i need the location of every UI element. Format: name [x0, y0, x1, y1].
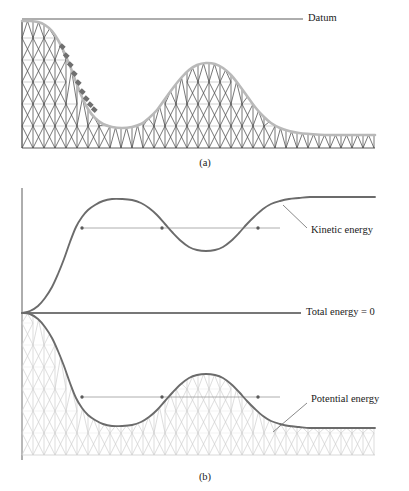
lattice-diagonal [66, 387, 72, 411]
lattice-diagonal [198, 64, 204, 82]
lattice-diagonal [358, 135, 364, 148]
lattice-diagonal [193, 68, 199, 82]
lattice-diagonal [121, 128, 127, 148]
lattice-diagonal [171, 91, 177, 104]
potential-level-marker [256, 395, 259, 398]
lattice-diagonal [220, 380, 226, 389]
lattice-diagonal [264, 420, 270, 433]
lattice-diagonal [319, 135, 325, 148]
lattice-diagonal [44, 334, 50, 345]
lattice-diagonal [297, 133, 303, 148]
lattice-diagonal [204, 374, 210, 389]
lattice-diagonal [127, 128, 133, 148]
roller-coaster-train [59, 43, 98, 113]
lattice-diagonal [110, 127, 116, 148]
lattice-diagonal [127, 426, 133, 433]
lattice-diagonal [77, 409, 83, 433]
lattice-diagonal [325, 135, 331, 148]
lattice-diagonal [292, 132, 298, 149]
lattice-diagonal [242, 97, 248, 104]
trestle-lattice [22, 21, 374, 148]
lattice-diagonal [116, 127, 122, 148]
lattice-diagonal [77, 98, 83, 126]
lattice-diagonal [314, 134, 320, 148]
lattice-diagonal [231, 390, 237, 412]
lattice-diagonal [22, 314, 28, 323]
lattice-diagonal [33, 22, 39, 38]
lattice-diagonal [138, 125, 144, 148]
kinetic-level-marker [80, 226, 83, 229]
panel-a-caption: (a) [199, 157, 211, 169]
lattice-diagonal [286, 426, 292, 433]
lattice-diagonal [369, 135, 375, 148]
lattice-diagonal [275, 424, 281, 433]
lattice-diagonal [138, 423, 144, 433]
panel-b-caption: (b) [199, 471, 212, 483]
lattice-diagonal [28, 21, 34, 38]
lattice-diagonal [33, 320, 39, 345]
lattice-diagonal [66, 70, 72, 104]
lattice-diagonal [99, 424, 105, 433]
lattice-diagonal [88, 419, 94, 433]
lattice-diagonal [341, 135, 347, 148]
potential-level-marker [160, 395, 163, 398]
kinetic-energy-curve [22, 197, 375, 313]
coaster-car [91, 106, 98, 113]
lattice-diagonal [44, 29, 50, 38]
lattice-diagonal [22, 21, 28, 38]
lattice-diagonal [253, 412, 259, 433]
lattice-diagonal [330, 135, 336, 148]
lattice-diagonal [198, 374, 204, 389]
energy-conservation-figure: (a) (b) Datum Total energy = 0 Kinetic e… [0, 0, 409, 491]
trestle-lattice [22, 313, 374, 455]
lattice-diagonal [88, 116, 94, 126]
lattice-diagonal [363, 135, 369, 148]
lattice-diagonal [182, 384, 188, 389]
lattice-diagonal [204, 64, 210, 82]
lattice-diagonal [303, 133, 309, 148]
kinetic-energy-leader [283, 205, 307, 228]
lattice-diagonal [231, 82, 237, 104]
lattice-diagonal [193, 377, 199, 389]
lattice-diagonal [253, 111, 259, 126]
lattice-diagonal [132, 125, 138, 148]
kinetic-level-marker [160, 226, 163, 229]
lattice-diagonal [336, 135, 342, 148]
lattice-diagonal [209, 64, 215, 82]
potential-energy-label: Potential energy [311, 393, 380, 404]
lattice-diagonal [55, 357, 61, 389]
lattice-diagonal [149, 417, 155, 433]
lattice-diagonal [242, 402, 248, 412]
datum-label: Datum [308, 12, 337, 23]
kinetic-level-marker [256, 226, 259, 229]
total-energy-label: Total energy = 0 [306, 306, 375, 317]
lattice-diagonal [220, 70, 226, 82]
roller-coaster-track [22, 21, 375, 135]
lattice-diagonal [149, 118, 155, 126]
lattice-diagonal [209, 375, 215, 389]
lattice-diagonal [352, 135, 358, 148]
lattice-diagonal [275, 128, 281, 148]
lattice-diagonal [160, 107, 166, 126]
lattice-diagonal [182, 78, 188, 105]
lattice-diagonal [308, 134, 314, 148]
potential-level-marker [80, 395, 83, 398]
lattice-diagonal [160, 407, 166, 433]
kinetic-energy-label: Kinetic energy [311, 224, 374, 235]
lattice-diagonal [347, 135, 353, 148]
lattice-diagonal [286, 132, 292, 149]
panel-a-roller-coaster [22, 19, 375, 148]
